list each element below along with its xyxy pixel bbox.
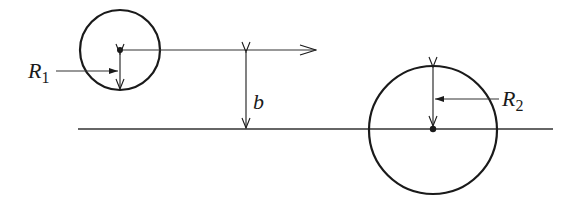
b-label: b xyxy=(253,91,264,113)
r1-label-subscript: 1 xyxy=(41,69,49,86)
r1-label: R1 xyxy=(28,60,49,86)
scattering-diagram xyxy=(0,0,576,207)
r2-label-main: R xyxy=(502,86,515,111)
large-circle-center-dot xyxy=(430,126,436,132)
r2-label: R2 xyxy=(502,88,523,114)
r1-label-main: R xyxy=(28,58,41,83)
r2-label-subscript: 2 xyxy=(515,97,523,114)
b-label-text: b xyxy=(253,89,264,114)
